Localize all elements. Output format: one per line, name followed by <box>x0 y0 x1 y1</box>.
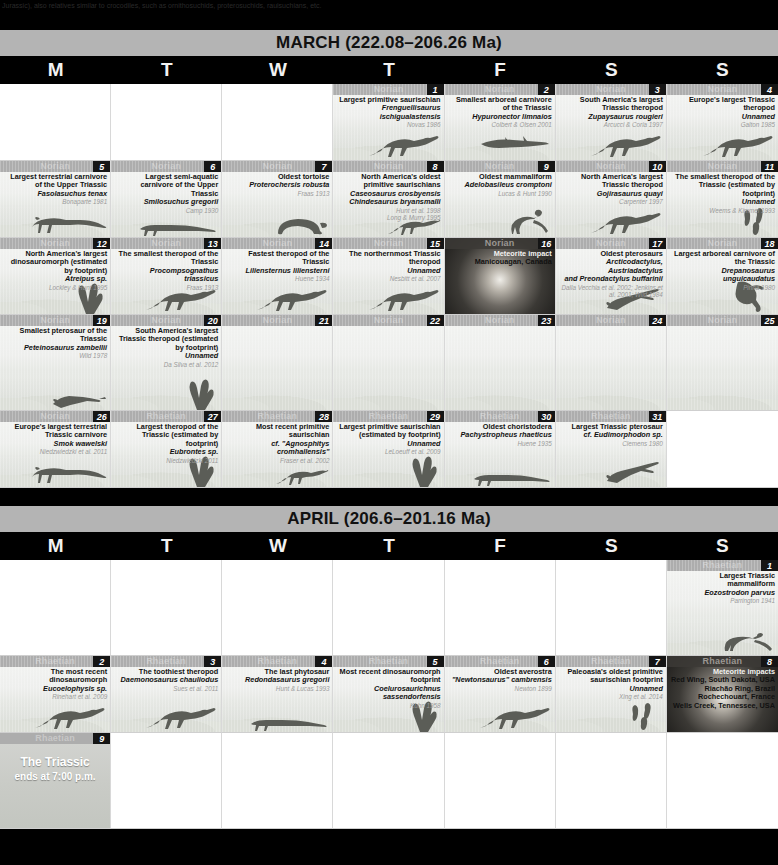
calendar-cell[interactable]: Rhaetian31Largest Triassic pterosaurcf. … <box>556 411 667 488</box>
calendar-cell[interactable]: Norian12North America's largest dinosaur… <box>0 238 111 315</box>
cell-reference: Arcucci & Coria 1997 <box>559 121 663 129</box>
silhouette-footprint3 <box>625 702 663 732</box>
day-of-week-header: T <box>111 532 222 560</box>
cell-header: Rhaetian9 <box>0 733 110 744</box>
cell-reference: Fraser et al. 2002 <box>225 457 329 465</box>
cell-text: Paleoasia's oldest primitive saurischian… <box>556 667 666 701</box>
calendar-cell[interactable]: Norian23 <box>445 315 556 411</box>
calendar-cell[interactable]: Norian17Oldest pterosaursArcticodactylus… <box>556 238 667 315</box>
week-row: Norian26Europe's largest terrestrial Tri… <box>0 411 778 488</box>
calendar-cell[interactable]: Norian1Largest primitive saurischianFren… <box>333 84 444 161</box>
day-number: 30 <box>538 411 555 422</box>
calendar-cell[interactable]: Rhaetian6Oldest averostra"Newtonsaurus" … <box>445 656 556 733</box>
calendar-cell[interactable]: Norian6Largest semi-aquatic carnivore of… <box>111 161 222 238</box>
cell-reference: Huene 1935 <box>448 440 552 448</box>
cell-scientific-name: Hypuronector limnaios <box>448 113 552 121</box>
day-of-week-header: S <box>667 532 778 560</box>
bottom-black-gap <box>0 829 778 845</box>
calendar-cell[interactable]: Norian20South America's largest Triassic… <box>111 315 222 411</box>
cell-text: Largest terrestrial carnivore of the Upp… <box>0 172 110 206</box>
day-of-week-header: S <box>556 56 667 84</box>
calendar-cell[interactable]: Rhaetian8Meteorite impactsRed Wing, Sout… <box>667 656 778 733</box>
week-row: Norian1Largest primitive saurischianFren… <box>0 84 778 161</box>
cell-title: North America's largest dinosauromorph (… <box>3 250 107 275</box>
calendar-cell-blank <box>556 733 667 829</box>
calendar-cell[interactable]: Norian8North America's oldest primitive … <box>333 161 444 238</box>
calendar-cell[interactable]: Norian10North America's largest Triassic… <box>556 161 667 238</box>
calendar-cell[interactable]: Norian2Smallest arboreal carnivore of th… <box>445 84 556 161</box>
calendar-cell-blank <box>556 560 667 656</box>
silhouette-theropod <box>478 702 552 732</box>
day-of-week-header: W <box>222 532 333 560</box>
day-number: 1 <box>761 560 778 571</box>
cell-text: Largest Triassic pterosaurcf. Eudimorpho… <box>556 422 666 447</box>
calendar-cell[interactable]: Norian19Smallest pterosaur of the Triass… <box>0 315 111 411</box>
cell-reference: Nesbitt et al. 2007 <box>336 275 440 283</box>
calendar-cell[interactable]: Rhaetian9The Triassicends at 7:00 p.m. <box>0 733 111 829</box>
cell-header: Rhaetian4 <box>222 656 332 667</box>
silhouette-theropod <box>367 284 441 314</box>
calendar-cell[interactable]: Norian24 <box>556 315 667 411</box>
cell-header: Norian5 <box>0 161 110 172</box>
calendar-cell[interactable]: Rhaetian1Largest Triassic mammaliformEoz… <box>667 560 778 656</box>
calendar-cell[interactable]: Norian22 <box>333 315 444 411</box>
calendar-cell[interactable]: Norian25 <box>667 315 778 411</box>
day-number: 10 <box>649 161 666 172</box>
cell-text: The last phytosaurRedondasaurus gregorii… <box>222 667 332 692</box>
cell-reference: Hunt et al. 1998 <box>336 207 440 215</box>
cell-text: Europe's largest terrestrial Triassic ca… <box>0 422 110 456</box>
cell-text: Europe's largest Triassic theropodUnname… <box>667 95 778 129</box>
day-number: 7 <box>315 161 332 172</box>
cell-header: Norian23 <box>445 315 555 326</box>
end-line-2: ends at 7:00 p.m. <box>0 770 110 783</box>
cell-header: Rhaetian5 <box>333 656 443 667</box>
calendar-cell[interactable]: Norian13The smallest theropod of the Tri… <box>111 238 222 315</box>
cell-header: Rhaetian2 <box>0 656 110 667</box>
calendar-cell[interactable]: Norian5Largest terrestrial carnivore of … <box>0 161 111 238</box>
calendar-cell[interactable]: Norian21 <box>222 315 333 411</box>
calendar-cell[interactable]: Norian26Europe's largest terrestrial Tri… <box>0 411 111 488</box>
calendar-cell[interactable]: Norian11The smallest theropod of the Tri… <box>667 161 778 238</box>
cell-header: Norian2 <box>445 84 555 95</box>
calendar-cell-blank <box>111 560 222 656</box>
day-number: 3 <box>204 656 221 667</box>
cell-title: Largest arboreal carnivore of the Triass… <box>670 250 775 267</box>
cell-scientific-name: Frenguellisaurus ischigualastensis <box>336 104 440 121</box>
day-number: 31 <box>649 411 666 422</box>
calendar-cell[interactable]: Norian4Europe's largest Triassic theropo… <box>667 84 778 161</box>
cell-header: Norian21 <box>222 315 332 326</box>
calendar-cell[interactable]: Rhaetian27Largest theropod of the Triass… <box>111 411 222 488</box>
cell-title: The smallest theropod of the Triassic <box>114 250 218 267</box>
cell-text: Smallest arboreal carnivore of the Trias… <box>445 95 555 129</box>
calendar-cell[interactable]: Rhaetian3The toothiest theropodDaemonosa… <box>111 656 222 733</box>
calendar-cell[interactable]: Rhaetian5Most recent dinosauromorph foot… <box>333 656 444 733</box>
calendar-cell[interactable]: Norian3South America's largest Triassic … <box>556 84 667 161</box>
cell-extra: Red Wing, South Dakota, USARiachão Ring,… <box>670 676 775 710</box>
cell-reference: Carpenter 1997 <box>559 198 663 206</box>
cell-header: Norian25 <box>667 315 778 326</box>
calendar-cell[interactable]: Rhaetian28Most recent primitive saurisch… <box>222 411 333 488</box>
calendar-cell[interactable]: Norian9Oldest mammaliformAdelobasileus c… <box>445 161 556 238</box>
calendar-cell[interactable]: Norian7Oldest tortoiseProterochersis rob… <box>222 161 333 238</box>
cell-scientific-name: cf. Eudimorphodon sp. <box>559 431 663 439</box>
cell-text: The most recent dinosauromorphEucoelophy… <box>0 667 110 701</box>
calendar-cell[interactable]: Rhaetian2The most recent dinosauromorphE… <box>0 656 111 733</box>
day-number: 2 <box>93 656 110 667</box>
cell-title: Most recent primitive saurischian <box>225 423 329 440</box>
calendar-cell[interactable]: Rhaetian4The last phytosaurRedondasaurus… <box>222 656 333 733</box>
calendar-cell[interactable]: Norian16Meteorite impactManicouagan, Can… <box>445 238 556 315</box>
cell-reference: Fraas 1913 <box>114 284 218 292</box>
calendar-cell[interactable]: Norian18Largest arboreal carnivore of th… <box>667 238 778 315</box>
calendar-cell[interactable]: Norian14Fastest theropod of the Triassic… <box>222 238 333 315</box>
calendar-cell-blank <box>111 733 222 829</box>
calendar-cell[interactable]: Rhaetian29Largest primitive saurischian … <box>333 411 444 488</box>
day-number: 25 <box>761 315 778 326</box>
calendar-cell-blank <box>333 560 444 656</box>
calendar-cell[interactable]: Norian15The northernmost Triassic therop… <box>333 238 444 315</box>
cell-title: The smallest theropod of the Triassic (e… <box>670 173 775 198</box>
silhouette-phytosaur <box>471 469 553 487</box>
calendar-cell[interactable]: Rhaetian30Oldest choristoderaPachystroph… <box>445 411 556 488</box>
cell-reference: Lockley & Hunt 1995 <box>3 284 107 292</box>
calendar-cell[interactable]: Rhaetian7Paleoasia's oldest primitive sa… <box>556 656 667 733</box>
day-number: 11 <box>761 161 778 172</box>
